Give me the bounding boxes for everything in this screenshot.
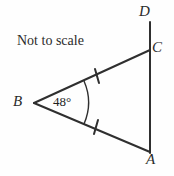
angle-measure-label: 48°	[53, 95, 71, 108]
vertex-label-b: B	[13, 94, 22, 109]
tick-mark-BA	[94, 120, 98, 134]
segment-BC	[34, 50, 150, 103]
geometry-figure: D C B A 48° Not to scale	[0, 0, 174, 176]
vertex-label-a: A	[146, 152, 155, 167]
angle-arc-B	[84, 81, 88, 124]
geometry-canvas	[0, 0, 174, 176]
segment-BA	[34, 103, 150, 152]
tick-mark-BC	[95, 69, 99, 83]
vertex-label-c: C	[152, 40, 162, 55]
not-to-scale-note: Not to scale	[17, 33, 84, 48]
vertex-label-d: D	[139, 4, 150, 19]
